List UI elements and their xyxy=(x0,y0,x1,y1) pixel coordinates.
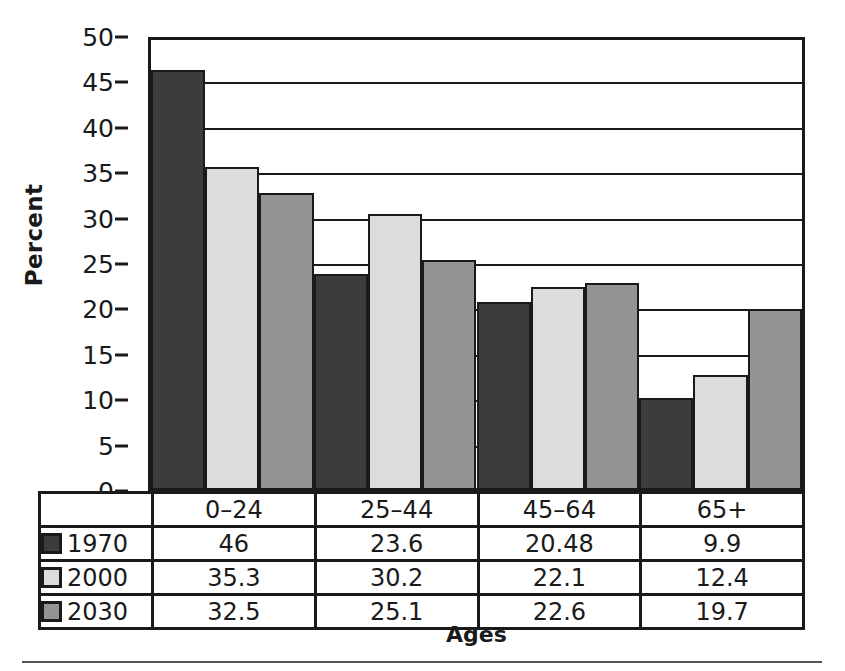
legend-swatch-icon xyxy=(41,567,62,588)
table-header-cell: 45–64 xyxy=(478,493,641,527)
bar-1970-25–44 xyxy=(314,274,368,488)
table-cell: 23.6 xyxy=(315,527,478,561)
legend-cell-2030: 2030 xyxy=(40,595,153,629)
bar-group xyxy=(477,40,640,488)
legend-cell-2000: 2000 xyxy=(40,561,153,595)
data-table-container: 0–2425–4445–6465+19704623.620.489.920003… xyxy=(38,491,805,616)
y-tick-label: 25 xyxy=(82,252,114,277)
legend-label: 2000 xyxy=(67,566,128,590)
bar-2030-25–44 xyxy=(422,260,476,488)
table-cell: 30.2 xyxy=(315,561,478,595)
bar-chart-figure: Percent 05101520253035404550 0–2425–4445… xyxy=(0,0,845,671)
bar-group xyxy=(151,40,314,488)
table-header-cell: 65+ xyxy=(641,493,804,527)
table-cell: 20.48 xyxy=(478,527,641,561)
y-tick-label: 5 xyxy=(98,433,114,458)
y-axis-ticks: 05101520253035404550 xyxy=(58,37,128,491)
y-tick-label: 40 xyxy=(82,115,114,140)
data-table: 0–2425–4445–6465+19704623.620.489.920003… xyxy=(38,491,805,630)
bar-group xyxy=(314,40,477,488)
y-tick-mark xyxy=(115,263,128,266)
y-tick-mark xyxy=(115,353,128,356)
bar-2000-0–24 xyxy=(205,167,259,488)
y-tick-mark xyxy=(115,308,128,311)
table-header-cell: 25–44 xyxy=(315,493,478,527)
legend-swatch-icon xyxy=(41,601,62,622)
legend-label: 1970 xyxy=(67,532,128,556)
y-tick-label: 10 xyxy=(82,388,114,413)
table-cell: 12.4 xyxy=(641,561,804,595)
y-axis-title: Percent xyxy=(21,165,47,305)
bar-2000-65+ xyxy=(693,375,747,488)
bar-1970-0–24 xyxy=(151,70,205,488)
y-tick-mark xyxy=(115,399,128,402)
table-row: 19704623.620.489.9 xyxy=(40,527,804,561)
y-tick-mark xyxy=(115,36,128,39)
bar-series-container xyxy=(151,40,802,488)
y-tick-mark xyxy=(115,217,128,220)
bar-group xyxy=(639,40,802,488)
bar-1970-65+ xyxy=(639,398,693,488)
y-tick-mark xyxy=(115,444,128,447)
y-tick-label: 15 xyxy=(82,342,114,367)
bar-2000-25–44 xyxy=(368,214,422,488)
x-axis-title: Ages xyxy=(148,622,805,647)
table-header-row: 0–2425–4445–6465+ xyxy=(40,493,804,527)
y-tick-mark xyxy=(115,126,128,129)
y-tick-label: 50 xyxy=(82,25,114,50)
table-corner-cell xyxy=(40,493,153,527)
bar-2030-45–64 xyxy=(585,283,639,488)
bar-1970-45–64 xyxy=(477,302,531,488)
table-cell: 35.3 xyxy=(153,561,316,595)
y-tick-mark xyxy=(115,172,128,175)
table-cell: 22.1 xyxy=(478,561,641,595)
bar-2000-45–64 xyxy=(531,287,585,488)
legend-cell-1970: 1970 xyxy=(40,527,153,561)
bar-2030-65+ xyxy=(748,309,802,488)
y-tick-label: 20 xyxy=(82,297,114,322)
legend-label: 2030 xyxy=(67,600,128,624)
table-header-cell: 0–24 xyxy=(153,493,316,527)
table-row: 200035.330.222.112.4 xyxy=(40,561,804,595)
table-cell: 9.9 xyxy=(641,527,804,561)
y-tick-mark xyxy=(115,81,128,84)
bar-2030-0–24 xyxy=(259,193,313,488)
legend-swatch-icon xyxy=(41,533,62,554)
table-cell: 46 xyxy=(153,527,316,561)
y-tick-label: 30 xyxy=(82,206,114,231)
y-tick-label: 45 xyxy=(82,70,114,95)
bottom-rule xyxy=(22,661,822,663)
y-tick-label: 35 xyxy=(82,161,114,186)
plot-area xyxy=(148,37,805,491)
